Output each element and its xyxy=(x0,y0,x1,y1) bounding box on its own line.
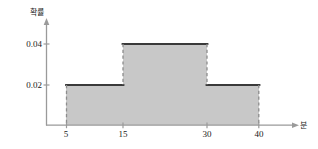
chart-plot-area xyxy=(0,0,318,149)
y-tick-label-0.04: 0.04 xyxy=(16,40,42,49)
x-tick-label-15: 15 xyxy=(113,130,133,139)
x-axis-arrowhead-icon xyxy=(292,122,299,128)
y-tick-label-0.02: 0.02 xyxy=(16,81,42,90)
x-tick-label-5: 5 xyxy=(56,130,76,139)
probability-density-chart: 확률 분 0.04 0.02 5 15 30 40 xyxy=(0,0,318,149)
y-axis-arrowhead-icon xyxy=(44,18,50,25)
x-tick-label-40: 40 xyxy=(249,130,269,139)
x-axis-title: 분 xyxy=(300,122,307,130)
x-tick-label-30: 30 xyxy=(197,130,217,139)
y-axis-title: 확률 xyxy=(30,9,44,17)
